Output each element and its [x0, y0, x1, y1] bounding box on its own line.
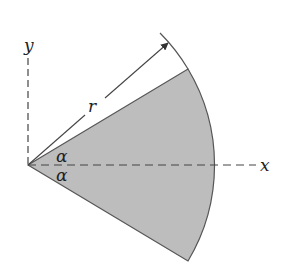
radius-label: r	[88, 96, 97, 116]
angle-lower-label: α	[56, 165, 68, 185]
x-axis-label: x	[260, 155, 270, 175]
y-axis-label: y	[23, 35, 34, 55]
sector-diagram: y x r α α	[0, 0, 295, 271]
radius-extension-arc	[160, 33, 188, 69]
angle-upper-label: α	[56, 146, 68, 166]
